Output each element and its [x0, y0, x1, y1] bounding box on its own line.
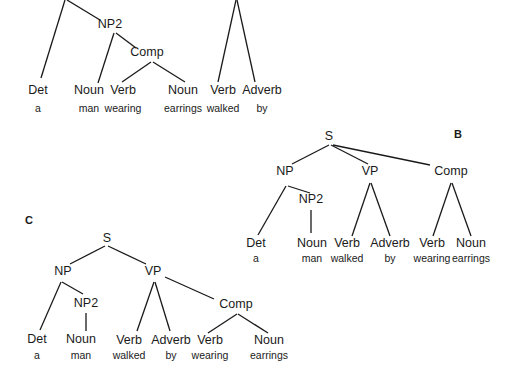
- node-comp: Comp: [434, 164, 467, 178]
- tree-edge: [238, 314, 268, 333]
- node-det: Det: [27, 332, 47, 346]
- tree-edge: [62, 282, 83, 294]
- tree-edge: [155, 282, 170, 331]
- leaf-word: walked: [112, 349, 146, 361]
- tree-edge: [333, 145, 430, 165]
- node-adverb: Adverb: [151, 333, 191, 347]
- tree-edge: [67, 0, 100, 20]
- leaf-word: wearing: [191, 349, 229, 361]
- node-noun: Noun: [168, 83, 198, 97]
- tree-panel-a: NP2CompDetNounVerbNounVerbAdverbamanwear…: [28, 0, 282, 114]
- tree-edge: [258, 186, 286, 235]
- tree-edge: [237, 0, 255, 82]
- leaf-word: man: [302, 252, 323, 264]
- leaf-word: a: [35, 102, 41, 114]
- node-comp: Comp: [130, 45, 163, 59]
- tree-edge: [122, 62, 151, 82]
- node-s: S: [325, 129, 333, 143]
- leaf-word: man: [71, 349, 92, 361]
- tree-edge: [371, 183, 390, 236]
- tree-edge: [452, 183, 471, 236]
- tree-edge: [137, 282, 154, 331]
- node-noun: Noun: [456, 236, 486, 250]
- node-verb: Verb: [197, 333, 223, 347]
- leaf-word: by: [384, 252, 396, 264]
- node-noun: Noun: [66, 332, 96, 346]
- node-comp: Comp: [219, 297, 252, 311]
- node-s: S: [103, 231, 111, 245]
- leaf-word: earrings: [250, 349, 288, 361]
- node-adverb: Adverb: [242, 83, 282, 97]
- tree-edge: [98, 33, 114, 83]
- node-np: NP2: [299, 192, 323, 206]
- tree-edge: [165, 277, 214, 299]
- leaf-word: earrings: [452, 252, 490, 264]
- panel-label: B: [454, 128, 462, 140]
- node-verb: Verb: [210, 83, 236, 97]
- node-np: NP2: [98, 17, 122, 31]
- leaf-word: walked: [330, 252, 364, 264]
- node-adverb: Adverb: [370, 236, 410, 250]
- panel-label: C: [25, 214, 33, 226]
- tree-edge: [292, 145, 329, 164]
- node-np: NP2: [74, 296, 98, 310]
- node-verb: Verb: [116, 333, 142, 347]
- leaf-word: man: [79, 102, 100, 114]
- node-noun: Noun: [254, 333, 284, 347]
- node-verb: Verb: [419, 236, 445, 250]
- tree-panel-b: SNPVPCompNP2DetNounVerbAdverbVerbNounama…: [246, 128, 490, 264]
- tree-edge: [70, 246, 105, 264]
- tree-edge: [40, 282, 61, 330]
- leaf-word: walked: [206, 102, 240, 114]
- node-verb: Verb: [334, 236, 360, 250]
- leaf-word: by: [256, 102, 268, 114]
- syntax-tree-figure: NP2CompDetNounVerbNounVerbAdverbamanwear…: [0, 0, 526, 388]
- node-noun: Noun: [74, 83, 104, 97]
- tree-edge: [433, 183, 451, 236]
- leaf-word: earrings: [164, 102, 202, 114]
- leaf-word: by: [165, 349, 177, 361]
- node-np: NP: [54, 264, 71, 278]
- node-noun: Noun: [297, 236, 327, 250]
- tree-edge: [352, 183, 370, 236]
- tree-edge: [108, 246, 146, 264]
- node-det: Det: [28, 83, 48, 97]
- node-det: Det: [246, 236, 266, 250]
- node-verb: Verb: [110, 83, 136, 97]
- node-np: NP: [276, 164, 293, 178]
- tree-edge: [153, 62, 185, 82]
- leaf-word: wearing: [104, 102, 142, 114]
- tree-edge: [208, 314, 237, 333]
- leaf-word: wearing: [413, 252, 451, 264]
- tree-edge: [218, 0, 236, 82]
- tree-edge: [41, 0, 65, 78]
- leaf-word: a: [34, 349, 40, 361]
- node-vp: VP: [362, 164, 379, 178]
- node-vp: VP: [145, 264, 162, 278]
- leaf-word: a: [253, 252, 259, 264]
